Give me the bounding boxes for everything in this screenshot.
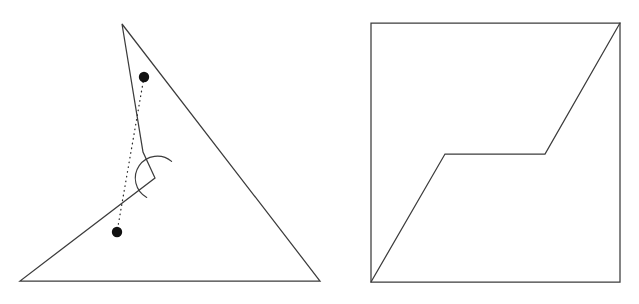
lower-marked-point xyxy=(112,227,122,237)
upper-marked-point xyxy=(139,72,149,82)
figures-canvas xyxy=(0,0,639,304)
canvas-background xyxy=(0,0,639,304)
